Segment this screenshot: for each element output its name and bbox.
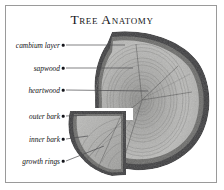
label-cambium-layer: cambium layer bbox=[16, 41, 60, 50]
label-sapwood-text: sapwood bbox=[34, 64, 60, 73]
label-heartwood-text: heartwood bbox=[28, 86, 60, 95]
label-dot-inner-bark bbox=[62, 138, 65, 141]
label-cambium-layer-text: cambium layer bbox=[16, 41, 60, 50]
label-heartwood: heartwood bbox=[28, 86, 60, 95]
label-sapwood: sapwood bbox=[34, 64, 60, 73]
label-growth-rings: growth rings bbox=[22, 157, 60, 166]
label-dot-cambium-layer bbox=[62, 44, 65, 47]
tree-anatomy-figure: Tree Anatomy bbox=[0, 0, 224, 190]
label-dot-growth-rings bbox=[62, 160, 65, 163]
label-dot-heartwood bbox=[62, 89, 65, 92]
label-outer-bark-text: outer bark bbox=[29, 112, 60, 121]
label-dot-sapwood bbox=[62, 67, 65, 70]
label-growth-rings-text: growth rings bbox=[22, 157, 60, 166]
wedge-piece bbox=[64, 106, 134, 182]
label-inner-bark: inner bark bbox=[29, 135, 60, 144]
label-outer-bark: outer bark bbox=[29, 112, 60, 121]
label-dot-outer-bark bbox=[62, 115, 65, 118]
label-inner-bark-text: inner bark bbox=[29, 135, 60, 144]
